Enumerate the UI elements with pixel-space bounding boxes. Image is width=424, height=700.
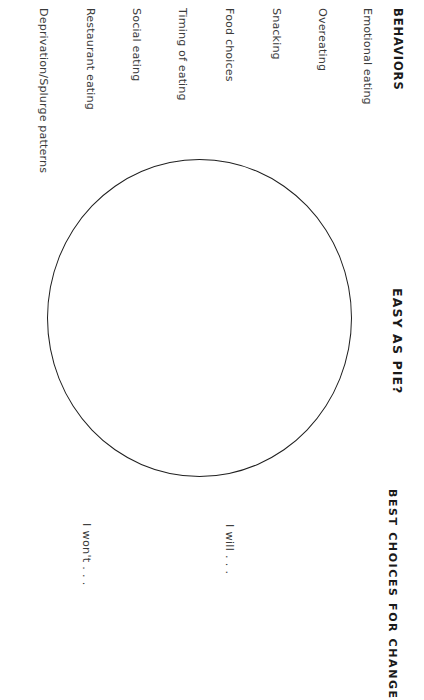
behaviors-section-heading: BEHAVIORS — [392, 8, 404, 91]
behavior-item-food-choices[interactable]: Food choices — [224, 8, 235, 82]
behavior-item-restaurant-eating[interactable]: Restaurant eating — [85, 8, 96, 110]
behavior-item-emotional-eating[interactable]: Emotional eating — [362, 8, 373, 105]
behavior-item-deprivation-splurge-patterns[interactable]: Deprivation/Splurge patterns — [38, 8, 49, 173]
behavior-item-snacking[interactable]: Snacking — [271, 8, 282, 60]
page-title: EASY AS PIE? — [391, 288, 404, 394]
prompt-i-wont[interactable]: I won't . . . — [81, 523, 92, 586]
behavior-item-social-eating[interactable]: Social eating — [131, 8, 142, 81]
pie-circle-outline[interactable] — [47, 159, 352, 477]
best-choices-section-heading: BEST CHOICES FOR CHANGE — [387, 489, 398, 700]
behavior-item-timing-of-eating[interactable]: Timing of eating — [177, 8, 188, 101]
prompt-i-will[interactable]: I will . . . — [224, 524, 235, 574]
behavior-item-overeating[interactable]: Overeating — [317, 8, 328, 71]
